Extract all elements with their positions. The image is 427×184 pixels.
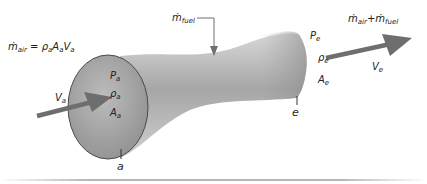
bottom-rule	[0, 179, 427, 181]
exit-mass-flow-label: ṁair+ṁfuel	[348, 13, 398, 26]
exit-area-label: Ae	[317, 74, 329, 87]
fuel-mass-flow-label: ṁfuel	[172, 12, 195, 25]
station-e-label: e	[292, 106, 299, 119]
exit-velocity-arrow	[326, 34, 412, 58]
air-mass-flow-equation: ṁair = ρaAaVa	[8, 41, 75, 54]
jet-engine-diagram: ṁair = ρaAaVa Pa ρa Aa Va a ṁfuel Pe ρe …	[0, 0, 427, 184]
station-a-label: a	[117, 160, 124, 173]
inlet-velocity-label: Va	[55, 92, 66, 105]
fuel-injection-arrow	[197, 18, 218, 56]
exit-density-label: ρe	[318, 52, 329, 65]
exit-pressure-label: Pe	[310, 30, 320, 43]
duct-exit-shade	[260, 32, 307, 100]
exit-velocity-label: Ve	[372, 61, 383, 74]
